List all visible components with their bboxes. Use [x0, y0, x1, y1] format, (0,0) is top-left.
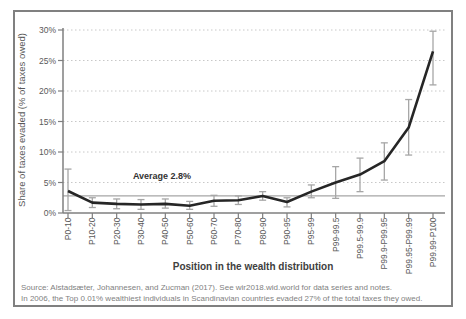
- axes: [58, 28, 445, 218]
- x-tick-label: P90-95: [282, 217, 293, 279]
- data-line: [68, 51, 433, 205]
- x-tick-label: P99.95-P99.99: [403, 217, 414, 279]
- x-tick-label: P60-70: [209, 217, 220, 279]
- x-tick-label: P40-50: [160, 217, 171, 279]
- y-gridlines: [63, 30, 445, 183]
- y-axis-title: Share of taxes evaded (% of taxes owed): [16, 27, 28, 213]
- x-tick-label: P10-20: [87, 217, 98, 279]
- x-tick-label: P20-30: [111, 217, 122, 279]
- x-tick-label: P99.5-99.9: [355, 217, 366, 279]
- tax-evasion-series: [68, 51, 433, 205]
- x-tick-label: P99.9-P99.95: [379, 217, 390, 279]
- x-tick-label: P50-60: [184, 217, 195, 279]
- x-tick-label: P95-99: [306, 217, 317, 279]
- y-tick-label: 30%: [28, 25, 56, 35]
- x-tick-label: P99-99.5: [330, 217, 341, 279]
- y-tick-label: 10%: [28, 147, 56, 157]
- y-tick-label: 5%: [28, 178, 56, 188]
- chart-figure: Share of taxes evaded (% of taxes owed) …: [0, 0, 466, 319]
- y-tick-label: 20%: [28, 86, 56, 96]
- y-tick-label: 0%: [28, 208, 56, 218]
- x-tick-label: P99.99-P100: [428, 217, 439, 279]
- y-tick-label: 25%: [28, 56, 56, 66]
- x-tick-label: P70-80: [233, 217, 244, 279]
- x-tick-label: P80-90: [257, 217, 268, 279]
- x-tick-label: P30-40: [136, 217, 147, 279]
- source-note: In 2006, the Top 0.01% wealthiest indivi…: [21, 294, 451, 303]
- y-tick-label: 15%: [28, 117, 56, 127]
- average-annotation: Average 2.8%: [112, 171, 212, 181]
- error-bars: [65, 31, 437, 210]
- x-tick-label: P0-10: [63, 217, 74, 279]
- source-citation: Source: Alstadsæter, Johannesen, and Zuc…: [21, 283, 451, 292]
